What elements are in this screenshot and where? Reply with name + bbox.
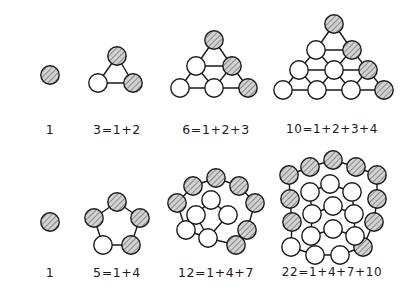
shaded-dot bbox=[223, 57, 241, 75]
shaded-dot bbox=[124, 74, 142, 92]
open-dot bbox=[199, 229, 217, 247]
open-dot bbox=[202, 191, 220, 209]
shaded-dot bbox=[347, 158, 365, 176]
shaded-dot bbox=[325, 15, 343, 33]
open-dot bbox=[219, 206, 237, 224]
open-dot bbox=[303, 205, 321, 223]
shaded-dot bbox=[227, 236, 245, 254]
shaded-dot bbox=[368, 166, 386, 184]
figurate-numbers-diagram bbox=[0, 0, 409, 291]
shaded-dot bbox=[301, 158, 319, 176]
open-dot bbox=[324, 220, 342, 238]
open-dot bbox=[274, 81, 292, 99]
shaded-dot bbox=[41, 66, 59, 84]
caption-tri-4: 10=1+2+3+4 bbox=[286, 122, 378, 136]
caption-tri-2: 3=1+2 bbox=[93, 122, 141, 137]
open-dot bbox=[94, 236, 112, 254]
open-dot bbox=[324, 197, 342, 215]
shaded-dot bbox=[184, 177, 202, 195]
open-dot bbox=[290, 61, 308, 79]
open-dot bbox=[187, 206, 205, 224]
caption-pent-2: 5=1+4 bbox=[93, 265, 141, 280]
shaded-dot bbox=[131, 209, 149, 227]
open-dot bbox=[308, 81, 326, 99]
shaded-dot bbox=[281, 190, 299, 208]
shaded-dot bbox=[375, 81, 393, 99]
shaded-dot bbox=[280, 166, 298, 184]
open-dot bbox=[306, 246, 324, 264]
caption-pent-3: 12=1+4+7 bbox=[178, 265, 254, 280]
caption-tri-1: 1 bbox=[46, 122, 55, 137]
open-dot bbox=[343, 183, 361, 201]
shaded-dot bbox=[324, 151, 342, 169]
shaded-dot bbox=[108, 193, 126, 211]
open-dot bbox=[282, 238, 300, 256]
shaded-dot bbox=[168, 194, 186, 212]
open-dot bbox=[321, 175, 339, 193]
open-dot bbox=[301, 183, 319, 201]
caption-pent-4: 22=1+4+7+10 bbox=[282, 265, 382, 279]
shaded-dot bbox=[359, 61, 377, 79]
caption-tri-3: 6=1+2+3 bbox=[182, 122, 249, 137]
shaded-dot bbox=[230, 177, 248, 195]
shaded-dot bbox=[283, 213, 301, 231]
caption-pent-1: 1 bbox=[46, 265, 55, 280]
open-dot bbox=[345, 205, 363, 223]
open-dot bbox=[171, 79, 189, 97]
open-dot bbox=[89, 74, 107, 92]
shaded-dot bbox=[122, 236, 140, 254]
shaded-dot bbox=[365, 213, 383, 231]
figure-pent-1 bbox=[41, 213, 59, 231]
open-dot bbox=[342, 81, 360, 99]
shaded-dot bbox=[207, 169, 225, 187]
open-dot bbox=[187, 57, 205, 75]
shaded-dot bbox=[343, 41, 361, 59]
shaded-dot bbox=[108, 47, 126, 65]
open-dot bbox=[325, 61, 343, 79]
open-dot bbox=[346, 227, 364, 245]
shaded-dot bbox=[246, 194, 264, 212]
shaded-dot bbox=[85, 209, 103, 227]
shaded-dot bbox=[368, 190, 386, 208]
shaded-dot bbox=[205, 31, 223, 49]
open-dot bbox=[205, 79, 223, 97]
figure-tri-1 bbox=[41, 66, 59, 84]
shaded-dot bbox=[41, 213, 59, 231]
shaded-dot bbox=[239, 79, 257, 97]
open-dot bbox=[302, 227, 320, 245]
open-dot bbox=[307, 41, 325, 59]
open-dot bbox=[331, 246, 349, 264]
